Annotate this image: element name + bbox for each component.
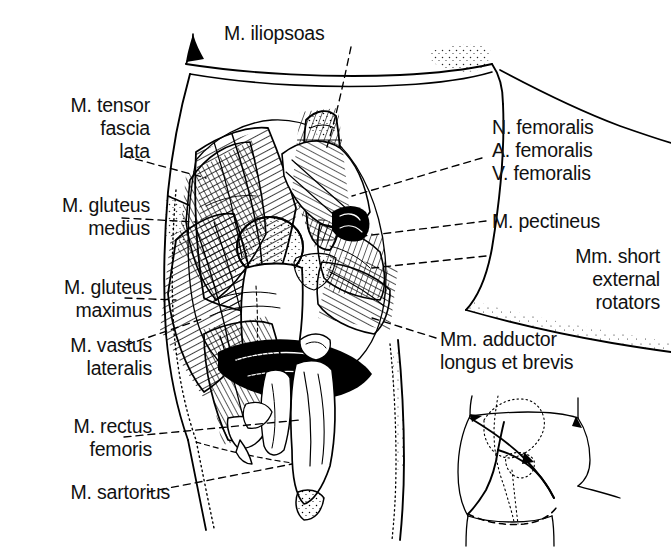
- label-v-femoralis: V. femoralis: [492, 162, 591, 185]
- label-adductor-longus-brevis: Mm. adductor longus et brevis: [440, 328, 573, 374]
- label-n-femoralis: N. femoralis: [492, 116, 594, 139]
- label-gluteus-maximus: M. gluteus maximus: [12, 276, 152, 322]
- label-iliopsoas: M. iliopsoas: [224, 22, 325, 45]
- label-a-femoralis: A. femoralis: [492, 139, 593, 162]
- label-vastus-lateralis: M. vastus lateralis: [12, 334, 152, 380]
- label-pectineus: M. pectineus: [492, 210, 600, 233]
- figure-caption: [28, 540, 628, 554]
- anatomy-figure: M. iliopsoas M. tensor fascia lata M. gl…: [0, 0, 671, 555]
- label-gluteus-medius: M. gluteus medius: [12, 194, 150, 240]
- label-sartorius: M. sartorius: [10, 481, 170, 504]
- label-tensor-fascia-lata: M. tensor fascia lata: [12, 94, 150, 163]
- label-short-external-rotators: Mm. short external rotators: [492, 245, 660, 314]
- label-rectus-femoris: M. rectus femoris: [12, 415, 152, 461]
